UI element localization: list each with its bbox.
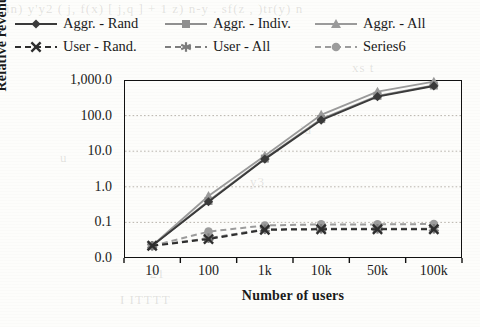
series-line — [152, 82, 434, 246]
series-series6 — [148, 220, 438, 250]
series-user-rand — [148, 225, 439, 251]
series-line — [152, 224, 434, 246]
series-user-all — [147, 224, 438, 251]
chart-figure: Aggr. - RandAggr. - Indiv.Aggr. - AllUse… — [0, 0, 480, 327]
series-layer — [0, 0, 480, 327]
x-tick-label: 10k — [311, 263, 332, 279]
x-tick-label: 100 — [198, 263, 219, 279]
series-line — [152, 229, 434, 246]
x-axis-title: Number of users — [124, 288, 462, 304]
x-tick-label: 50k — [367, 263, 388, 279]
x-tick-label: 1k — [258, 263, 272, 279]
series-line — [152, 86, 434, 246]
x-tick-label: 10 — [145, 263, 159, 279]
series-line — [152, 86, 434, 246]
series-line — [152, 229, 434, 246]
x-tick-label: 100k — [420, 263, 448, 279]
